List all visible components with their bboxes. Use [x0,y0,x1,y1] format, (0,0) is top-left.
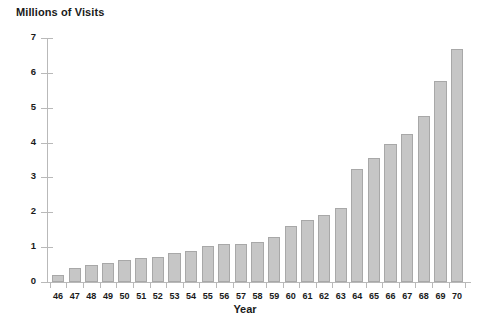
x-axis-tick-mark [199,283,200,288]
y-axis-tick-label: 6 [6,66,36,77]
x-axis-line [47,282,471,283]
y-axis-tick-label: 4 [6,136,36,147]
bar [202,246,214,282]
x-axis-tick-mark [449,283,450,288]
bar [301,220,313,282]
bar [218,244,230,282]
x-axis-tick-mark [183,283,184,288]
bar [168,253,180,282]
bar [135,258,147,282]
bar [418,116,430,282]
y-axis-title: Millions of Visits [16,6,104,18]
x-axis-tick-mark [100,283,101,288]
bar [52,275,64,282]
bar [235,244,247,282]
x-axis-title: Year [0,303,490,315]
bar [384,144,396,282]
bar [102,263,114,282]
x-axis-tick-mark [66,283,67,288]
x-axis-tick-label: 70 [446,291,468,301]
bar [451,49,463,282]
y-axis-tick-label: 0 [6,275,36,286]
plot-area [47,38,470,282]
bar [152,257,164,282]
bar [118,260,130,282]
y-axis-tick-label: 7 [6,31,36,42]
y-axis-tick-label: 1 [6,240,36,251]
bar [85,265,97,282]
bar [268,237,280,282]
x-axis-tick-mark [332,283,333,288]
y-axis-tick-label: 5 [6,101,36,112]
x-axis-tick-mark [249,283,250,288]
x-axis-tick-mark [349,283,350,288]
bar [185,251,197,282]
x-axis-tick-mark [150,283,151,288]
x-axis-tick-mark [432,283,433,288]
x-axis-tick-mark [366,283,367,288]
bar-chart: Millions of Visits 01234567 464748495051… [0,0,490,325]
bar [335,208,347,282]
x-axis-tick-mark [233,283,234,288]
x-axis-tick-mark [133,283,134,288]
bar [285,226,297,282]
y-axis-tick-label: 2 [6,205,36,216]
x-axis-tick-mark [316,283,317,288]
x-axis-tick-mark [266,283,267,288]
y-axis-tick-mark [41,282,53,283]
bar [401,134,413,282]
x-axis-tick-mark [299,283,300,288]
x-axis-tick-mark [216,283,217,288]
bar [318,215,330,282]
x-axis-tick-mark [116,283,117,288]
x-axis-tick-mark [283,283,284,288]
x-axis-tick-mark [166,283,167,288]
x-axis-tick-mark [382,283,383,288]
x-axis-tick-mark [399,283,400,288]
x-axis-tick-mark [415,283,416,288]
bar [69,268,81,282]
y-axis-tick-label: 3 [6,170,36,181]
bar [434,81,446,282]
bar [351,169,363,282]
x-axis-tick-mark [50,283,51,288]
x-axis-tick-mark [83,283,84,288]
bar [251,242,263,282]
bar [368,158,380,282]
x-axis-tick-mark [465,283,466,288]
